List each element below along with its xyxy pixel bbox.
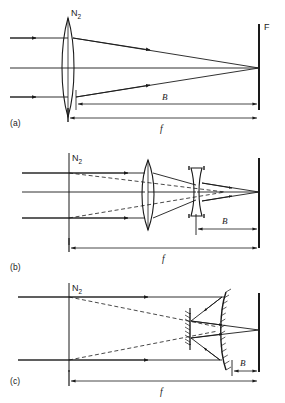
panel-c-nodal-subscript: 2: [79, 288, 83, 295]
panel-a-nodal-subscript: 2: [78, 13, 82, 20]
optics-figure: N 2 F B: [0, 0, 285, 403]
panel-label-a: (a): [10, 118, 21, 128]
panel-c: N 2: [18, 283, 259, 397]
panel-b-nodal-label: N 2: [72, 153, 83, 165]
panel-a: N 2 F B: [10, 8, 270, 134]
panel-c-f-label: f: [160, 387, 164, 397]
panel-a-B-label: B: [162, 92, 168, 102]
panel-c-nodal-label: N 2: [72, 283, 83, 295]
panel-a-f-label: f: [160, 124, 164, 134]
panel-b-f-label: f: [162, 254, 166, 264]
panel-b-nodal-subscript: 2: [79, 158, 83, 165]
panel-b: N 2: [22, 153, 259, 264]
panel-a-converging-rays: [68, 38, 259, 97]
panel-b-incoming-rays: [22, 173, 145, 218]
panel-c-dashed-rays: [69, 297, 218, 360]
panel-c-reflected-rays-primary: [191, 297, 222, 360]
panel-a-f-dimension: [68, 108, 257, 122]
panel-a-nodal-label: N 2: [71, 8, 82, 20]
panel-a-biconvex-lens: [62, 18, 74, 117]
panel-a-incoming-rays: [10, 38, 68, 97]
panel-c-B-label: B: [240, 358, 246, 368]
panel-b-f-dimension: [69, 238, 257, 252]
panel-b-B-label: B: [222, 216, 228, 226]
panel-b-final-rays: [197, 183, 259, 201]
panel-label-b: (b): [10, 262, 21, 272]
panel-b-biconvex-lens: [142, 160, 154, 230]
panel-c-f-dimension: [69, 370, 257, 386]
panel-c-incoming-rays: [18, 297, 225, 360]
panel-b-dashed-rays: [69, 173, 225, 218]
panel-c-primary-mirror: [220, 289, 231, 370]
panel-label-c: (c): [10, 376, 20, 386]
panel-b-mid-rays: [148, 173, 196, 218]
panel-c-secondary-mirror: [185, 308, 190, 350]
panel-a-focus-label: F: [264, 22, 270, 32]
